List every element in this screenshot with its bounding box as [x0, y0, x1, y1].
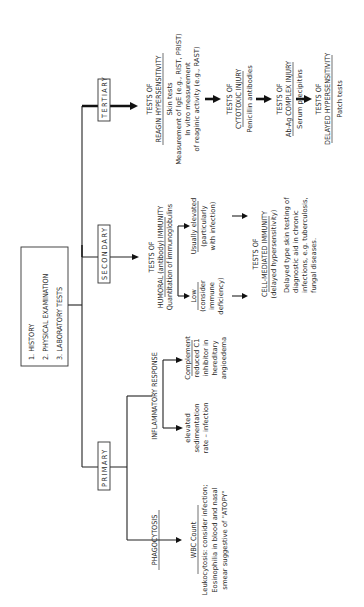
arrow-icon: [176, 357, 183, 363]
complement-heading: Complement: [184, 336, 192, 380]
reagin-line-4: of reaginic activity (e.g., RAST): [193, 46, 201, 152]
phagocytosis-heading: PHAGOCYTOSIS: [150, 515, 159, 566]
phagocytosis-note-2: Eosinophilia in blood and nasal: [211, 487, 219, 592]
delayed-line-1: Patch tests: [336, 80, 344, 118]
cell-mediated-note-3: infections, e.g. tuberculosis,: [301, 197, 309, 293]
level-secondary: SECONDARY: [100, 227, 109, 280]
complement-line-3: hereditary: [211, 340, 219, 375]
arrow-icon: [132, 254, 139, 260]
arrow-icon: [264, 95, 272, 103]
reagin-line-1: Skin tests: [166, 82, 174, 116]
low-heading: Low: [190, 289, 198, 303]
start-item-physical-exam: 2. PHYSICAL EXAMINATION: [41, 273, 50, 360]
complex-line-1: Serum precipitins: [296, 69, 304, 129]
arrow-icon: [242, 293, 248, 299]
cytotoxic-heading-1: TESTS OF: [225, 83, 234, 115]
complex-heading-1: TESTS OF: [275, 83, 284, 115]
cytotoxic-line-1: Penicillin antibodies: [246, 65, 254, 133]
reagin-heading-2: REAGIN HYPERSENSITIVITY: [154, 55, 163, 142]
inflammatory-left-3: rate – infection: [202, 402, 210, 453]
inflammatory-heading: INFLAMMATORY RESPONSE: [150, 352, 159, 439]
complement-line-2: inhibitor in: [202, 340, 210, 377]
delayed-heading-2: DELAYED HYPERSENSITIVITY: [323, 53, 332, 145]
humoral-heading-2: HUMORAL (antibody) IMMUNITY: [156, 206, 165, 309]
level-primary: PRIMARY: [100, 448, 109, 487]
start-item-lab-tests: 3. LABORATORY TESTS: [55, 287, 64, 360]
arrow-icon: [130, 102, 138, 110]
phagocytosis-note-3: smear suggestive of "ATOPY": [221, 490, 229, 589]
arrow-icon: [176, 425, 183, 431]
cytotoxic-heading-2: CYTOTOXIC INJURY: [234, 69, 243, 129]
low-line-2: immune: [208, 282, 216, 310]
low-line-3: deficiency): [217, 277, 225, 315]
level-tertiary: TERTIARY: [100, 76, 109, 119]
delayed-heading-1: TESTS OF: [314, 83, 323, 115]
cell-mediated-sub: (delayed hypersensitivity): [270, 209, 278, 298]
inflammatory-left-2: sedimentation: [193, 404, 201, 453]
arrow-icon: [304, 95, 312, 103]
start-item-history: 1. HISTORY: [27, 324, 36, 360]
cell-mediated-heading-1: TESTS OF: [251, 238, 260, 270]
cell-mediated-heading-2: CELL-MEDIATED IMMUNITY: [260, 211, 269, 297]
complement-line-4: angioedema: [220, 337, 228, 379]
arrow-icon: [213, 95, 221, 103]
high-line-1: (particularly: [200, 205, 208, 246]
complex-heading-2: Ab-Ag COMPLEX INJURY: [284, 61, 293, 137]
cell-mediated-note-4: fungal diseases.: [310, 238, 318, 293]
high-line-2: with infection): [209, 201, 217, 250]
cell-mediated-note-2: diagnostic aid in chronic: [292, 210, 300, 293]
complement-line-1: reduced C1: [193, 339, 201, 378]
arrow-icon: [176, 537, 182, 543]
phagocytosis-note-1: Leukocytosis: consider infection;: [201, 485, 209, 596]
reagin-line-2: Measurement of IgE (e.g., RIST, PRIST): [175, 33, 183, 165]
arrow-icon: [242, 213, 248, 219]
humoral-sub: Quantitation of immunoglobulins: [165, 203, 174, 310]
reagin-heading-1: TESTS OF: [145, 83, 154, 115]
high-heading: Usually elevated: [190, 198, 198, 255]
inflammatory-left-1: elevated: [184, 413, 192, 443]
humoral-heading-1: TESTS OF: [147, 241, 156, 273]
wbc-count: WBC Count: [189, 521, 198, 558]
immunology-test-flowchart: 1. HISTORY 2. PHYSICAL EXAMINATION 3. LA…: [0, 0, 364, 607]
low-line-1: (consider: [199, 280, 207, 312]
reagin-line-3: In vitro measurement: [184, 62, 192, 136]
cell-mediated-note-1: Delayed type skin testing of: [283, 197, 291, 293]
